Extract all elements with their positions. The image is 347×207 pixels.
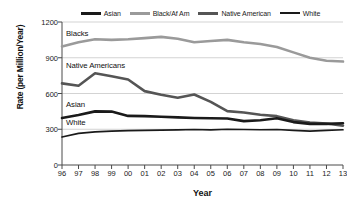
x-tick-label: 12 [322,169,330,178]
x-tick-label: 13 [339,169,347,178]
x-tick-label: 99 [107,169,115,178]
x-tick-label: 04 [190,169,198,178]
x-tick-label: 06 [223,169,231,178]
y-tick-label: 1200 [24,18,58,27]
chart-legend: Asian Black/Af Am Native American White [58,6,343,20]
y-tick-label: 600 [24,89,58,98]
x-tick-label: 03 [174,169,182,178]
series-annotation-asian: Asian [66,100,85,109]
x-tick-label: 11 [306,169,314,178]
x-tick-label: 98 [91,169,99,178]
series-line-white [62,129,343,137]
legend-label-white: White [303,9,320,18]
legend-swatch-black-af-am [130,12,150,15]
legend-swatch-asian [81,12,101,15]
y-axis-tick-labels: 12009006003000 [20,0,58,207]
y-tick-label: 0 [24,161,58,170]
legend-label-asian: Asian [104,9,121,18]
x-tick-label: 97 [74,169,82,178]
legend-swatch-white [280,12,300,14]
legend-swatch-native-american [198,12,218,15]
x-tick-label: 08 [256,169,264,178]
legend-item-black-af-am: Black/Af Am [130,9,190,18]
x-axis-title: Year [62,188,343,198]
legend-item-native-american: Native American [198,9,270,18]
x-tick-label: 00 [124,169,132,178]
x-tick-label: 96 [58,169,66,178]
legend-label-native-american: Native American [221,9,270,18]
legend-item-asian: Asian [81,9,121,18]
y-tick-label: 300 [24,125,58,134]
legend-label-black-af-am: Black/Af Am [153,9,190,18]
series-annotation-blacks: Blacks [66,29,88,38]
x-tick-label: 09 [273,169,281,178]
x-tick-label: 01 [140,169,148,178]
x-tick-label: 10 [289,169,297,178]
x-tick-label: 07 [240,169,248,178]
legend-item-white: White [280,9,320,18]
y-tick-label: 900 [24,53,58,62]
series-annotation-white: White [66,118,85,127]
x-tick-label: 02 [157,169,165,178]
series-annotation-native-americans: Native Americans [66,61,125,70]
x-tick-label: 05 [207,169,215,178]
series-line-asian [62,111,343,124]
